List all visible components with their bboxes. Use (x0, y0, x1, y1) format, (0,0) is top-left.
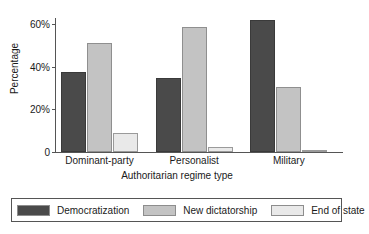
legend-label: New dictatorship (183, 205, 257, 216)
y-tick-label: 40% (30, 61, 50, 72)
bar (156, 78, 181, 152)
y-tick-label: 0 (44, 147, 50, 158)
y-tick-mark (52, 24, 56, 25)
bar (276, 87, 301, 152)
x-axis-tick-label: Personalist (169, 155, 218, 166)
bar (302, 150, 327, 152)
legend-label: Democratization (57, 205, 129, 216)
legend-swatch-icon (143, 205, 176, 216)
x-axis-tick-label: Dominant-party (65, 155, 133, 166)
x-axis-line (55, 152, 343, 153)
plot-area: 020%40%60% (56, 20, 340, 152)
legend-swatch-icon (271, 205, 304, 216)
y-tick-mark (52, 109, 56, 110)
y-axis-title: Percentage (9, 24, 20, 114)
bar (182, 27, 207, 152)
legend-entry: Democratization (17, 205, 143, 216)
y-tick-label: 20% (30, 104, 50, 115)
bar (208, 147, 233, 152)
y-tick-label: 60% (30, 19, 50, 30)
legend-label: End of state (311, 205, 364, 216)
bar (250, 20, 275, 152)
bar (113, 133, 138, 152)
y-tick-mark (52, 152, 56, 153)
chart-legend: DemocratizationNew dictatorshipEnd of st… (11, 198, 342, 222)
y-tick-mark (52, 67, 56, 68)
legend-entry: New dictatorship (143, 205, 271, 216)
bar (61, 72, 86, 152)
bar (87, 43, 112, 152)
x-axis-title: Authoritarian regime type (0, 170, 354, 181)
x-axis-tick-label: Military (273, 155, 305, 166)
legend-swatch-icon (17, 205, 50, 216)
legend-entry: End of state (271, 205, 369, 216)
